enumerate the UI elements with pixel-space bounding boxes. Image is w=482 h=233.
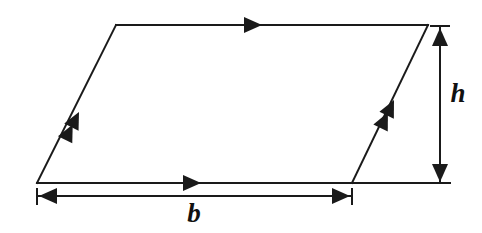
base-label: b (187, 198, 201, 228)
figure-canvas: b h (0, 0, 482, 233)
height-label: h (450, 78, 465, 108)
parallelogram-figure: b h (0, 0, 482, 233)
figure-background (0, 0, 482, 233)
